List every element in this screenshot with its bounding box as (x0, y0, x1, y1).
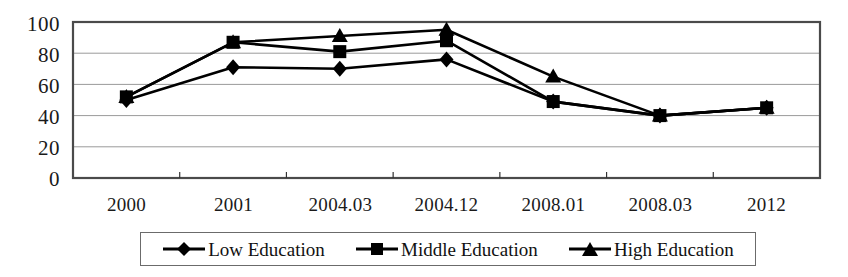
legend-item-low-education: Low Education (162, 240, 325, 259)
data-point-square (547, 95, 560, 108)
legend-label-middle-education: Middle Education (401, 240, 538, 259)
legend-label-high-education: High Education (614, 240, 734, 259)
line-chart: 100 80 60 40 20 0 2000 2001 2004.03 2004… (0, 0, 848, 277)
data-point-diamond (333, 61, 347, 77)
data-point-triangle (439, 22, 455, 36)
square-icon (355, 240, 399, 258)
series-layer (118, 22, 774, 124)
legend-item-middle-education: Middle Education (355, 240, 538, 259)
data-point-triangle (545, 69, 561, 83)
series-line (126, 59, 766, 115)
data-point-square (333, 45, 346, 58)
series-middle-education (120, 34, 773, 122)
diamond-icon (162, 240, 206, 258)
chart-legend: Low Education Middle Education High Educ… (140, 232, 756, 266)
legend-item-high-education: High Education (568, 240, 734, 259)
triangle-icon (568, 240, 612, 258)
data-point-diamond (226, 59, 240, 75)
data-point-square (440, 34, 453, 47)
legend-label-low-education: Low Education (208, 240, 325, 259)
series-low-education (119, 51, 773, 123)
data-point-diamond (440, 51, 454, 67)
